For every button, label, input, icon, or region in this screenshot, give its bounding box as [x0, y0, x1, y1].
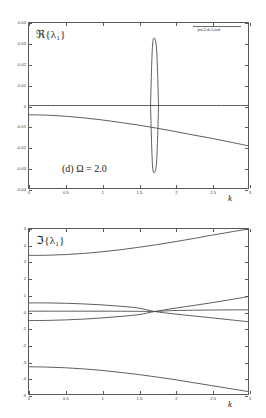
y-tick	[245, 107, 248, 108]
x-tick	[176, 23, 177, 26]
plot-curves-imaginary	[29, 229, 248, 394]
y-tick-label: -0.04	[16, 188, 26, 192]
x-tick	[140, 229, 141, 232]
y-tick-label: -3	[22, 360, 26, 364]
y-tick-label: 3	[24, 260, 26, 264]
y-tick	[245, 329, 248, 330]
y-tick	[29, 296, 32, 297]
panel-annotation-real: (d) Ω = 2.0	[62, 163, 107, 174]
x-tick	[140, 185, 141, 188]
x-tick	[29, 185, 30, 188]
y-tick-label: -0.02	[16, 146, 26, 150]
x-tick-label: 3	[249, 397, 251, 401]
y-tick-label: -1	[22, 327, 26, 331]
y-tick	[245, 313, 248, 314]
y-tick	[29, 246, 32, 247]
y-tick-label: 2	[24, 277, 26, 281]
y-tick-label: 5	[24, 227, 26, 231]
x-tick	[66, 229, 67, 232]
legend-rule-real	[193, 26, 241, 27]
y-tick	[245, 363, 248, 364]
plot-area-imaginary: -5-4-3-2-101234500.511.522.53	[28, 228, 249, 395]
y-tick	[29, 65, 32, 66]
y-axis-title-imaginary: ℑ{λ₁}	[36, 234, 65, 247]
y-tick	[245, 86, 248, 87]
figure-eigenvalue-spectrum: -0.04-0.03-0.02-0.0100.010.020.030.0400.…	[0, 0, 266, 418]
y-tick-label: -0.03	[16, 167, 26, 171]
y-tick	[29, 148, 32, 149]
y-axis-title-real: ℜ{λ₁}	[36, 28, 66, 41]
y-tick-label: 0.02	[18, 63, 26, 67]
series-inner-upper-collapsing	[29, 303, 248, 322]
y-tick	[245, 127, 248, 128]
y-tick	[245, 44, 248, 45]
series-instability-bubble-upper	[151, 38, 159, 105]
y-tick	[245, 169, 248, 170]
y-tick-label: 0.01	[18, 84, 26, 88]
y-tick	[245, 346, 248, 347]
y-tick	[245, 396, 248, 397]
x-axis-title-imaginary: k	[228, 399, 232, 409]
x-tick-label: 1	[101, 397, 103, 401]
panel-imaginary-part: -5-4-3-2-101234500.511.522.53 ℑ{λ₁} k 'p…	[0, 210, 266, 418]
x-tick	[213, 185, 214, 188]
series-inner-lower-collapsing	[29, 297, 248, 321]
y-tick	[245, 23, 248, 24]
series-decaying-branch	[29, 115, 248, 146]
x-tick	[66, 391, 67, 394]
x-tick	[176, 391, 177, 394]
x-tick	[176, 229, 177, 232]
x-tick-label: 1.5	[137, 191, 143, 195]
x-tick	[250, 23, 251, 26]
x-tick-label: 0.5	[63, 191, 69, 195]
panel-real-part: -0.04-0.03-0.02-0.0100.010.020.030.0400.…	[0, 0, 266, 210]
y-tick	[29, 379, 32, 380]
series-lower-outer-branch	[29, 367, 248, 392]
x-tick-label: 1	[101, 191, 103, 195]
y-tick-label: -0.01	[16, 125, 26, 129]
x-tick	[250, 229, 251, 232]
y-tick	[245, 296, 248, 297]
x-tick-label: 0	[28, 397, 30, 401]
x-tick-label: 0.5	[63, 397, 69, 401]
legend-label-real: 'pre-2-rk-1-real'	[197, 28, 221, 32]
y-tick-label: -2	[22, 344, 26, 348]
y-tick	[29, 329, 32, 330]
x-tick	[140, 391, 141, 394]
x-tick	[103, 185, 104, 188]
y-tick-label: 0	[24, 310, 26, 314]
y-tick	[245, 148, 248, 149]
x-tick-label: 2.5	[210, 191, 216, 195]
x-tick	[103, 229, 104, 232]
x-tick-label: 0	[28, 191, 30, 195]
x-tick	[103, 391, 104, 394]
y-tick	[245, 65, 248, 66]
y-tick-label: 0.04	[18, 21, 26, 25]
x-tick	[176, 185, 177, 188]
y-tick-label: 4	[24, 244, 26, 248]
y-tick	[29, 346, 32, 347]
x-tick	[29, 23, 30, 26]
x-tick	[250, 185, 251, 188]
x-axis-title-real: k	[228, 193, 232, 203]
y-tick	[245, 190, 248, 191]
y-tick-label: 0	[24, 104, 26, 108]
series-instability-bubble-lower	[151, 106, 159, 173]
x-tick-label: 1.5	[137, 397, 143, 401]
y-tick	[29, 107, 32, 108]
y-tick	[29, 262, 32, 263]
x-tick	[66, 23, 67, 26]
y-tick	[245, 279, 248, 280]
y-tick	[29, 169, 32, 170]
x-tick-label: 3	[249, 191, 251, 195]
y-tick-label: 0.03	[18, 42, 26, 46]
x-tick	[250, 391, 251, 394]
y-tick	[29, 44, 32, 45]
y-tick	[29, 127, 32, 128]
y-tick	[29, 313, 32, 314]
y-tick-label: 1	[24, 294, 26, 298]
x-tick	[66, 185, 67, 188]
x-tick	[103, 23, 104, 26]
y-tick	[29, 279, 32, 280]
y-tick-label: -5	[22, 394, 26, 398]
